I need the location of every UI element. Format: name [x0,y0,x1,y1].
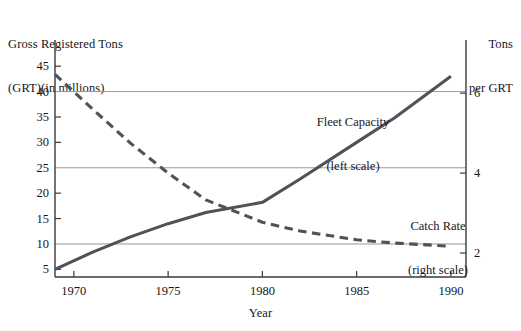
series-annotation-catch-rate: Catch Rate (right scale) [390,190,486,306]
fleet-annotation-line1: Fleet Capacity [305,115,401,130]
right-tick-label-4: 4 [474,167,508,180]
left-tick-label-35: 35 [15,111,49,124]
left-tick-label-25: 25 [15,162,49,175]
x-tick-label-1980: 1980 [232,285,292,298]
left-tick-label-5: 5 [15,263,49,276]
catch-annotation-line2: (right scale) [390,263,486,278]
series-annotation-fleet-capacity: Fleet Capacity (left scale) [305,86,401,202]
x-axis-title: Year [0,306,521,321]
left-tick-label-40: 40 [15,86,49,99]
fleet-annotation-line2: (left scale) [305,159,401,174]
right-tick-label-6: 6 [474,87,508,100]
left-tick-label-15: 15 [15,213,49,226]
x-tick-label-1970: 1970 [44,285,104,298]
left-tick-label-45: 45 [15,60,49,73]
catch-annotation-line1: Catch Rate [390,219,486,234]
left-tick-label-10: 10 [15,238,49,251]
x-tick-label-1985: 1985 [327,285,387,298]
left-tick-label-30: 30 [15,136,49,149]
x-tick-label-1975: 1975 [138,285,198,298]
left-tick-label-20: 20 [15,187,49,200]
chart-figure: Gross Registered Tons (GRT)(in millions)… [0,0,521,331]
